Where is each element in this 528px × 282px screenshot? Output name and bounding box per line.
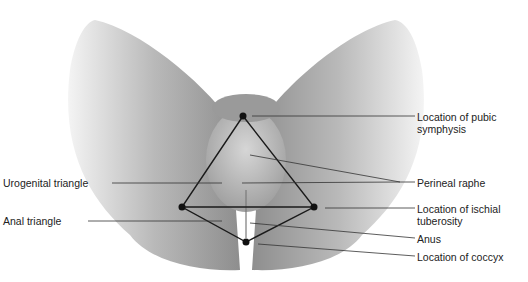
label-perineal-raphe: Perineal raphe <box>417 177 485 189</box>
label-anal-triangle: Anal triangle <box>3 215 61 227</box>
label-ischial-line2: tuberosity <box>417 215 500 227</box>
label-ischial-tuberosity: Location of ischial tuberosity <box>417 203 500 227</box>
label-pubic-symphysis-line2: symphysis <box>417 123 496 135</box>
label-urogenital-triangle: Urogenital triangle <box>3 177 88 189</box>
diagram-illustration <box>0 0 528 282</box>
perineum-diagram: Urogenital triangle Anal triangle Locati… <box>0 0 528 282</box>
label-anus: Anus <box>417 233 441 245</box>
pubic-symphysis-point <box>240 113 247 120</box>
body-silhouette <box>68 20 424 270</box>
coccyx-point <box>243 239 250 246</box>
label-pubic-symphysis-line1: Location of pubic <box>417 111 496 123</box>
right-ischial-point <box>311 204 318 211</box>
label-pubic-symphysis: Location of pubic symphysis <box>417 111 496 135</box>
label-ischial-line1: Location of ischial <box>417 203 500 215</box>
label-coccyx: Location of coccyx <box>417 251 503 263</box>
left-ischial-point <box>179 204 186 211</box>
